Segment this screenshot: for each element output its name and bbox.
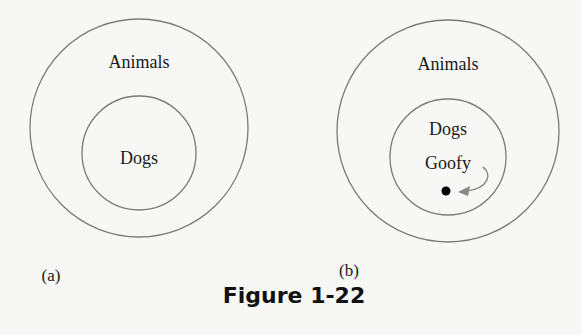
panel-a: Animals Dogs (a) (30, 19, 248, 285)
goofy-label: Goofy (425, 153, 471, 173)
animals-label-a: Animals (109, 52, 170, 72)
goofy-point (442, 187, 451, 196)
panel-b: Animals Dogs Goofy (b) (337, 20, 559, 280)
dogs-label-a: Dogs (120, 148, 158, 168)
animals-label-b: Animals (418, 54, 479, 74)
dogs-label-b: Dogs (429, 119, 467, 139)
panel-label-a: (a) (42, 266, 61, 285)
panel-label-b: (b) (339, 261, 359, 280)
arrow-head-icon (458, 186, 470, 196)
venn-diagram-figure: Animals Dogs (a) Animals Dogs Goofy (b) … (0, 0, 581, 335)
figure-caption: Figure 1-22 (223, 283, 365, 308)
